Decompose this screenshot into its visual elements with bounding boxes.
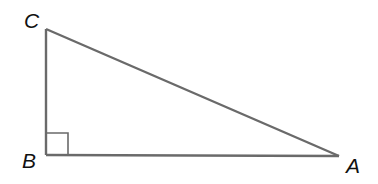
triangle: [46, 29, 339, 156]
side-ca: [46, 29, 339, 156]
triangle-diagram: C B A: [0, 0, 378, 184]
right-angle-marker: [46, 133, 68, 155]
vertex-label-b: B: [22, 149, 36, 172]
side-ba: [46, 155, 339, 156]
vertex-label-c: C: [24, 9, 40, 32]
vertex-label-a: A: [344, 154, 360, 177]
